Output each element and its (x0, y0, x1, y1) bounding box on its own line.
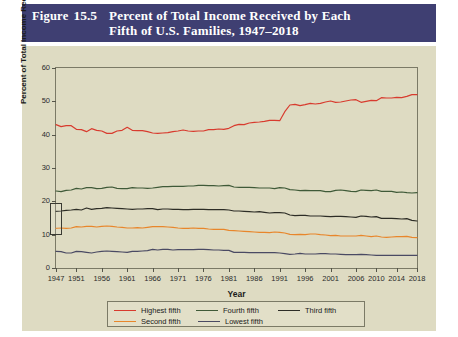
page-title: Percent of Total Income Received by Each… (109, 8, 351, 38)
series-line-highest-fifth (56, 95, 417, 134)
y-axis-label: Percent of Total Income Received (19, 0, 28, 104)
x-tick-mark (153, 268, 154, 272)
x-axis-label: Year (55, 289, 418, 299)
x-tick-label: 1981 (216, 274, 242, 283)
x-tick-mark (280, 268, 281, 272)
legend-label: Highest fifth (141, 306, 181, 315)
y-tick-label: 60 (42, 64, 50, 72)
legend-item-highest-fifth[interactable]: Highest fifth (114, 306, 196, 315)
y-tick-label: 0 (46, 264, 50, 272)
x-tick-mark (331, 268, 332, 272)
legend-swatch-icon (278, 310, 300, 311)
x-tick-mark (356, 268, 357, 272)
series-line-third-fifth (56, 208, 417, 221)
series-line-fourth-fifth (56, 185, 417, 193)
y-tick-label: 50 (42, 97, 50, 105)
x-tick-mark (76, 268, 77, 272)
x-tick-mark (203, 268, 204, 272)
x-tick-label: 1986 (241, 274, 267, 283)
chart-legend: Highest fifthFourth fifthThird fifthSeco… (107, 301, 365, 327)
y-tick-label: 20 (42, 197, 50, 205)
x-tick-mark (417, 268, 418, 272)
legend-label: Second fifth (141, 317, 181, 326)
legend-item-fourth-fifth[interactable]: Fourth fifth (196, 306, 278, 315)
x-tick-label: 1971 (165, 274, 191, 283)
y-tick-label: 10 (42, 231, 50, 239)
legend-swatch-icon (196, 310, 218, 311)
series-line-lowest-fifth (56, 249, 417, 255)
x-tick-label: 1991 (267, 274, 293, 283)
figure-word: Figure (32, 9, 68, 23)
legend-label: Lowest fifth (225, 317, 263, 326)
x-tick-mark (102, 268, 103, 272)
legend-swatch-icon (198, 321, 220, 322)
x-tick-label: 1951 (63, 274, 89, 283)
figure-title-band: Figure 15.5 Percent of Total Income Rece… (22, 4, 436, 42)
legend-row: Second fifthLowest fifth (114, 316, 360, 326)
legend-label: Third fifth (305, 306, 336, 315)
x-tick-mark (397, 268, 398, 272)
figure-label: Figure (32, 8, 68, 24)
legend-item-third-fifth[interactable]: Third fifth (278, 306, 360, 315)
x-tick-label: 1961 (114, 274, 140, 283)
legend-row: Highest fifthFourth fifthThird fifth (114, 305, 360, 315)
legend-swatch-icon (114, 310, 136, 311)
y-tick-label: 40 (42, 131, 50, 139)
legend-item-second-fifth[interactable]: Second fifth (114, 317, 198, 326)
plot-area (56, 68, 417, 268)
x-tick-label: 1956 (89, 274, 115, 283)
x-tick-mark (376, 268, 377, 272)
x-tick-mark (229, 268, 230, 272)
x-tick-mark (254, 268, 255, 272)
x-tick-mark (178, 268, 179, 272)
x-tick-mark (127, 268, 128, 272)
y-tick-label: 30 (42, 164, 50, 172)
legend-label: Fourth fifth (223, 306, 259, 315)
series-line-second-fifth (56, 226, 417, 238)
x-tick-label: 2001 (318, 274, 344, 283)
chart-panel: Percent of Total Income Received 0102030… (22, 46, 436, 331)
x-tick-label: 1966 (140, 274, 166, 283)
figure-number: 15.5 (73, 8, 97, 24)
title-line-2: Fifth of U.S. Families, 1947–2018 (109, 23, 351, 38)
series-lines (56, 68, 417, 268)
legend-swatch-icon (114, 321, 136, 322)
x-tick-mark (305, 268, 306, 272)
bracket-box-annotation (50, 203, 62, 235)
legend-item-lowest-fifth[interactable]: Lowest fifth (198, 317, 282, 326)
x-tick-label: 2018 (404, 274, 430, 283)
figure-container: Figure 15.5 Percent of Total Income Rece… (0, 0, 458, 337)
x-tick-label: 1976 (190, 274, 216, 283)
title-line-1: Percent of Total Income Received by Each (109, 8, 351, 23)
x-tick-label: 1996 (292, 274, 318, 283)
x-tick-mark (56, 268, 57, 272)
